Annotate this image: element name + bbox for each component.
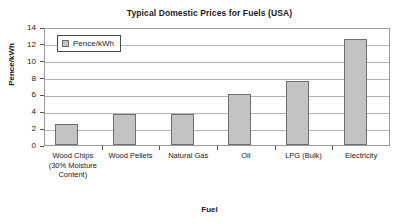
- bar: [344, 39, 367, 145]
- legend-swatch-icon: [62, 40, 69, 47]
- x-axis-tick: [217, 146, 218, 150]
- gridline: [45, 113, 389, 114]
- x-axis-category-label: LPG (Bulk): [275, 151, 333, 161]
- bar: [113, 114, 136, 145]
- gridline: [45, 79, 389, 80]
- x-axis-category-label: Electricity: [332, 151, 390, 161]
- y-axis-tick: [40, 95, 44, 96]
- x-axis-category-label: Wood Chips (30% Moisture Content): [44, 151, 102, 180]
- y-axis-tick-label: 8: [14, 75, 36, 83]
- y-axis-tick-label: 6: [14, 91, 36, 99]
- gridline: [45, 62, 389, 63]
- x-axis-category-label: Wood Pellets: [102, 151, 160, 161]
- legend-label: Pence/kWh: [73, 39, 114, 48]
- y-axis-tick-label: 0: [14, 142, 36, 150]
- y-axis-tick-label: 14: [14, 24, 36, 32]
- x-axis-category-label: Natural Gas: [159, 151, 217, 161]
- gridline: [45, 130, 389, 131]
- y-axis-tick-label: 12: [14, 41, 36, 49]
- x-axis-title: Fuel: [0, 205, 419, 214]
- x-axis-tick: [159, 146, 160, 150]
- chart-title: Typical Domestic Prices for Fuels (USA): [0, 8, 419, 18]
- x-axis-tick: [275, 146, 276, 150]
- y-axis-tick: [40, 146, 44, 147]
- y-axis-tick-label: 4: [14, 108, 36, 116]
- bar: [286, 81, 309, 145]
- bar: [228, 94, 251, 145]
- x-axis-tick: [102, 146, 103, 150]
- chart-legend: Pence/kWh: [57, 35, 121, 52]
- y-axis-tick: [40, 44, 44, 45]
- y-axis-tick: [40, 28, 44, 29]
- y-axis-tick: [40, 78, 44, 79]
- y-axis-tick-label: 2: [14, 125, 36, 133]
- x-axis-tick: [332, 146, 333, 150]
- x-axis-category-label: Oil: [217, 151, 275, 161]
- y-axis-tick: [40, 129, 44, 130]
- gridline: [45, 96, 389, 97]
- y-axis-tick-label: 10: [14, 58, 36, 66]
- bar: [55, 124, 78, 145]
- bar-chart: Typical Domestic Prices for Fuels (USA) …: [0, 0, 419, 224]
- y-axis-tick: [40, 61, 44, 62]
- y-axis-tick: [40, 112, 44, 113]
- bar: [171, 114, 194, 145]
